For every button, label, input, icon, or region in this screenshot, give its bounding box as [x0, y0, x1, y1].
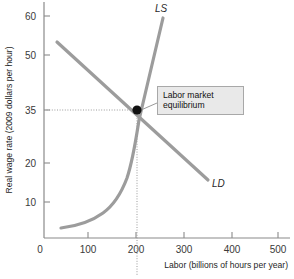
y-tick-label-50: 50 — [25, 50, 37, 61]
equilibrium-point-marker — [132, 105, 141, 114]
equilibrium-callout: Labor market equilibrium — [157, 86, 244, 115]
y-tick-label-20: 20 — [25, 158, 37, 169]
x-tick-label-400: 400 — [224, 244, 241, 255]
y-axis-title: Real wage rate (2009 dollars per hour) — [4, 46, 14, 193]
y-tick-label-10: 10 — [25, 197, 37, 208]
y-tick-label-60: 60 — [25, 11, 37, 22]
x-tick-label-500: 500 — [270, 244, 287, 255]
labor-market-chart: 60 50 35 20 10 0 100 200 300 400 500 Rea… — [0, 0, 294, 279]
x-tick-label-100: 100 — [80, 244, 97, 255]
x-tick-label-0: 0 — [37, 244, 43, 255]
x-tick-label-300: 300 — [176, 244, 193, 255]
chart-canvas: 60 50 35 20 10 0 100 200 300 400 500 Rea… — [0, 0, 294, 279]
x-tick-label-200: 200 — [128, 244, 145, 255]
curve-label-ld: LD — [212, 178, 225, 189]
y-tick-label-35: 35 — [25, 105, 37, 116]
curve-label-ls: LS — [155, 3, 168, 14]
x-axis-title: Labor (billions of hours per year) — [164, 260, 288, 270]
